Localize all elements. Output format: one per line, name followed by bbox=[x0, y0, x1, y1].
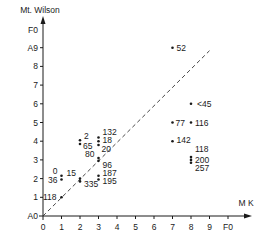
x-tick-label: F0 bbox=[223, 222, 233, 232]
point-label: 80 bbox=[85, 149, 95, 159]
point-label: 2 bbox=[84, 131, 89, 141]
point-label: 257 bbox=[195, 163, 209, 173]
x-axis-arrow-icon bbox=[244, 214, 252, 219]
y-axis-arrow-icon bbox=[41, 16, 46, 24]
data-point bbox=[79, 177, 82, 180]
y-tick-label: 8 bbox=[33, 61, 38, 71]
y-tick-label: 3 bbox=[33, 155, 38, 165]
y-tick-label: 2 bbox=[33, 174, 38, 184]
x-tick-label: 8 bbox=[189, 222, 194, 232]
x-tick-label: 0 bbox=[41, 222, 46, 232]
data-point bbox=[97, 174, 100, 177]
data-point bbox=[190, 156, 193, 159]
scatter-chart: 03611826515335132182080961871955277142<4… bbox=[0, 0, 268, 244]
x-tick-label: 1 bbox=[59, 222, 64, 232]
point-label: 335 bbox=[84, 179, 98, 189]
y-tick-label: 4 bbox=[33, 136, 38, 146]
data-point bbox=[97, 160, 100, 163]
data-point bbox=[60, 196, 63, 199]
data-point bbox=[190, 159, 193, 162]
one-to-one-line bbox=[43, 51, 210, 216]
data-point bbox=[97, 140, 100, 143]
reference-line bbox=[43, 51, 210, 216]
y-tick-label: A0 bbox=[28, 211, 39, 221]
data-point bbox=[97, 157, 100, 160]
point-label: 77 bbox=[176, 118, 186, 128]
data-point bbox=[97, 144, 100, 147]
data-point bbox=[97, 178, 100, 181]
x-tick-label: 9 bbox=[207, 222, 212, 232]
x-tick-label: 3 bbox=[96, 222, 101, 232]
x-tick-label: 4 bbox=[115, 222, 120, 232]
x-tick-label: 7 bbox=[170, 222, 175, 232]
point-label: 116 bbox=[195, 118, 209, 128]
point-label: 20 bbox=[102, 144, 112, 154]
data-point bbox=[60, 178, 63, 181]
point-label: 15 bbox=[67, 168, 77, 178]
x-tick-label: 6 bbox=[152, 222, 157, 232]
data-point bbox=[79, 180, 82, 183]
data-point bbox=[79, 139, 82, 142]
data-point bbox=[171, 121, 174, 124]
point-label: 118 bbox=[43, 192, 57, 202]
point-label: 195 bbox=[103, 176, 117, 186]
data-points: 03611826515335132182080961871955277142<4… bbox=[43, 43, 212, 203]
data-point bbox=[171, 140, 174, 143]
point-label: 52 bbox=[177, 43, 187, 53]
y-tick-label: F0 bbox=[28, 25, 38, 35]
axes bbox=[39, 16, 252, 220]
data-point bbox=[190, 161, 193, 164]
y-tick-label: 7 bbox=[33, 80, 38, 90]
x-axis-title: M K bbox=[238, 198, 253, 208]
point-label: 36 bbox=[48, 175, 58, 185]
x-tick-label: 5 bbox=[133, 222, 138, 232]
data-point bbox=[79, 143, 82, 146]
point-label: <45 bbox=[197, 99, 212, 109]
data-point bbox=[60, 174, 63, 177]
y-tick-label: 6 bbox=[33, 99, 38, 109]
x-tick-label: 2 bbox=[78, 222, 83, 232]
y-tick-label: 5 bbox=[33, 118, 38, 128]
y-axis-title: Mt. Wilson bbox=[20, 5, 60, 15]
data-point bbox=[171, 46, 174, 49]
point-label: 142 bbox=[177, 135, 191, 145]
data-point bbox=[190, 103, 193, 106]
data-point bbox=[190, 121, 193, 124]
y-tick-label: 1 bbox=[33, 192, 38, 202]
data-point bbox=[97, 136, 100, 139]
y-tick-label: A9 bbox=[28, 43, 39, 53]
point-label: 118 bbox=[195, 144, 209, 154]
